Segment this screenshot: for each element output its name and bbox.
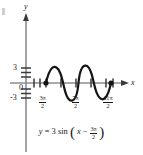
x-tick-label-7pi-over-2: 7π 2 bbox=[72, 95, 79, 109]
equation-close-paren: ) bbox=[99, 124, 104, 140]
y-axis-label: y bbox=[24, 3, 28, 11]
equation-function: sin bbox=[58, 126, 68, 136]
x-tick-denominator: 2 bbox=[103, 103, 113, 110]
equation-phase-shift-fraction: 3π 2 bbox=[90, 126, 96, 140]
figure-sine-graph: y x 3 0 -3 3π 2 7π 2 11π 2 y = 3 sin ( x… bbox=[0, 0, 143, 155]
y-tick-label-3: 3 bbox=[13, 64, 17, 72]
x-tick-denominator: 2 bbox=[72, 103, 79, 110]
x-tick-label-3pi-over-2: 3π 2 bbox=[39, 95, 46, 109]
x-tick-label-11pi-over-2: 11π 2 bbox=[103, 95, 113, 109]
endpoint-dot-right bbox=[108, 80, 113, 85]
endpoint-dot-left bbox=[43, 80, 48, 85]
x-axis-label: x bbox=[131, 79, 135, 87]
equation-equals: = bbox=[45, 126, 50, 136]
x-tick-denominator: 2 bbox=[39, 103, 46, 110]
y-tick-label-neg3: -3 bbox=[10, 94, 17, 102]
equation-open-paren: ( bbox=[70, 124, 75, 140]
equation-lhs: y bbox=[39, 126, 43, 136]
equation-caption: y = 3 sin ( x − 3π 2 ) bbox=[0, 126, 143, 140]
equation-amplitude: 3 bbox=[52, 126, 56, 136]
y-tick-label-0: 0 bbox=[19, 84, 23, 92]
equation-variable: x bbox=[77, 126, 81, 136]
equation-minus: − bbox=[83, 126, 88, 136]
equation-shift-denominator: 2 bbox=[90, 134, 96, 141]
